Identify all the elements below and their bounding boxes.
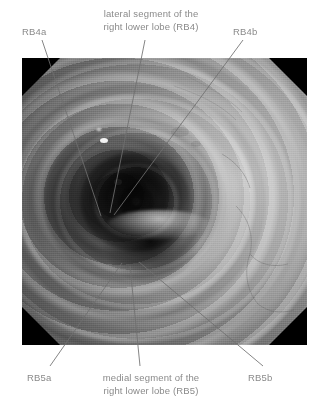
label-rb4a: RB4a [22, 26, 46, 39]
image-grain [22, 58, 307, 345]
label-rb4-lateral-segment: lateral segment of the right lower lobe … [92, 8, 210, 33]
label-rb5b: RB5b [248, 372, 272, 385]
label-rb4b: RB4b [233, 26, 257, 39]
label-rb5a: RB5a [27, 372, 51, 385]
label-rb5-medial-segment: medial segment of the right lower lobe (… [88, 372, 214, 397]
endoscopic-image [22, 58, 307, 345]
bronchoscopy-figure: RB4a lateral segment of the right lower … [0, 0, 329, 407]
